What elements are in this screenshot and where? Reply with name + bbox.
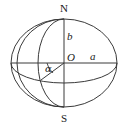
- label-south-pole: S: [61, 113, 67, 124]
- label-center-origin: O: [67, 52, 75, 63]
- label-angle-alpha: α: [45, 64, 52, 74]
- diagram-canvas: [0, 0, 129, 128]
- label-semi-major-axis-a: a: [90, 51, 96, 62]
- sphere-diagram: N S O a b α: [0, 0, 129, 128]
- label-semi-minor-axis-b: b: [67, 31, 73, 42]
- label-north-pole: N: [60, 3, 68, 14]
